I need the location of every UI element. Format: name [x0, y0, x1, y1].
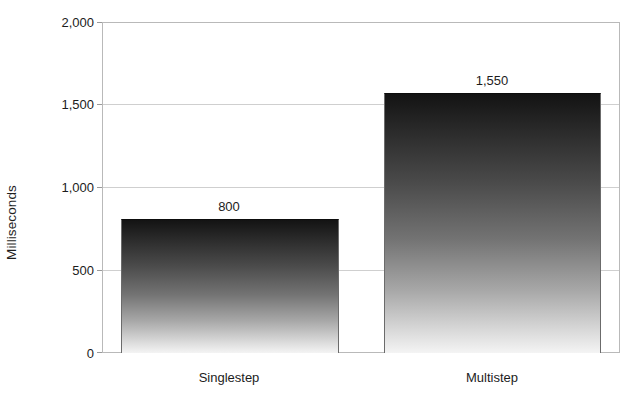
x-category-label-multistep: Multistep [392, 370, 592, 385]
bar-value-label-multistep: 1,550 [392, 73, 592, 88]
y-tick-label-500: 500 [32, 263, 94, 278]
bar-value-label-singlestep: 800 [129, 199, 329, 214]
y-tick-label-1000: 1,000 [32, 180, 94, 195]
y-tick-label-2000: 2,000 [32, 15, 94, 30]
y-tick-label-0: 0 [32, 346, 94, 361]
y-axis-title-label: Milliseconds [4, 185, 19, 260]
bar-multistep[interactable] [384, 93, 601, 353]
bar-chart: Milliseconds 2,000 1,500 1,000 500 0 800… [0, 0, 632, 401]
bar-singlestep[interactable] [121, 219, 339, 353]
plot-area [102, 22, 620, 353]
y-axis-title: Milliseconds [0, 0, 34, 401]
y-tick-label-1500: 1,500 [32, 97, 94, 112]
x-category-label-singlestep: Singlestep [129, 370, 329, 385]
